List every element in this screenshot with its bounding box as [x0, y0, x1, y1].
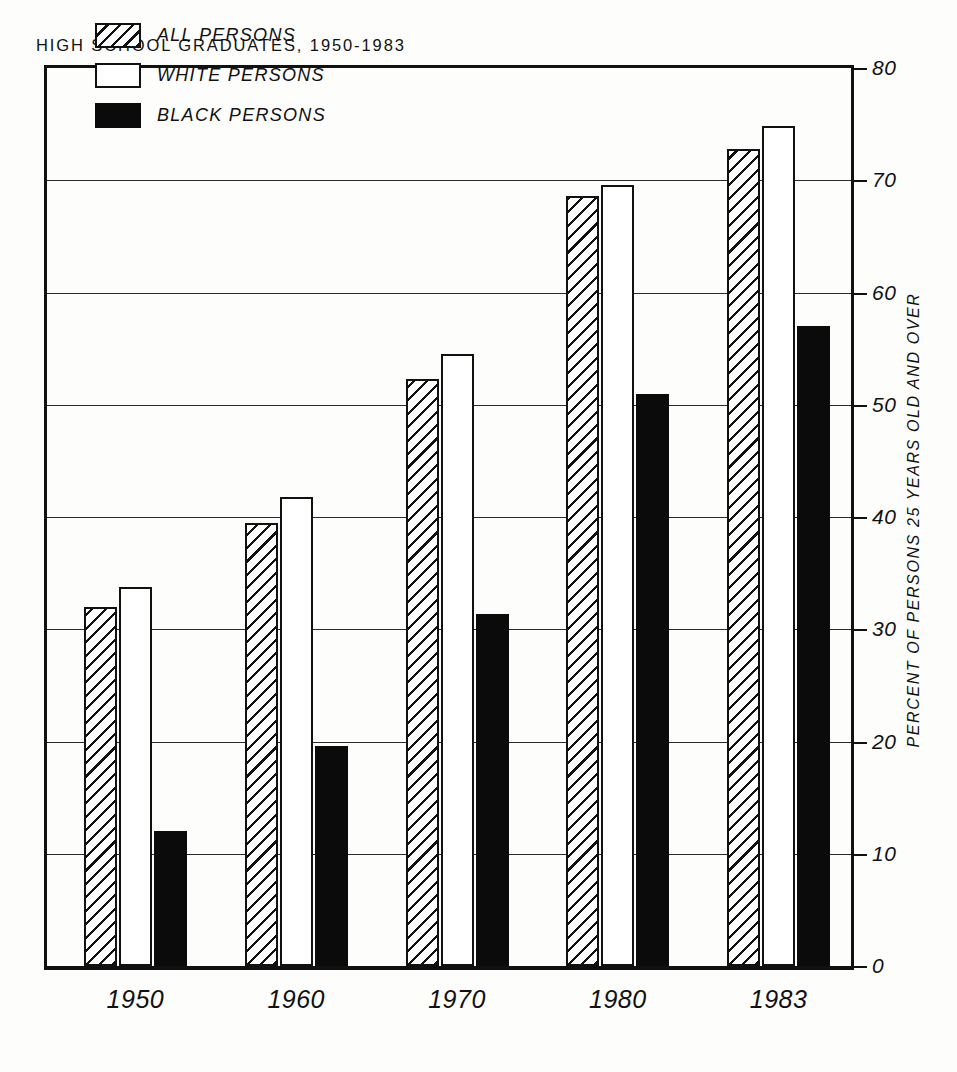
bar-1983-white[interactable]	[762, 126, 795, 966]
chart-legend: ALL PERSONS WHITE PERSONS BLACK PERSONS	[95, 17, 335, 137]
bar-1960-all[interactable]	[245, 523, 278, 966]
y-axis-tick-label: 50	[872, 393, 896, 417]
y-axis-tick-mark	[854, 68, 867, 70]
y-axis-tick-mark	[854, 742, 867, 744]
chart-figure: HIGH SCHOOL GRADUATES, 1950-1983 0102030…	[0, 0, 957, 1072]
bar-1983-all[interactable]	[727, 149, 760, 966]
legend-swatch-white-icon	[95, 63, 141, 88]
y-axis-title: PERCENT OF PERSONS 25 YEARS OLD AND OVER	[905, 293, 923, 748]
legend-swatch-black-icon	[95, 103, 141, 128]
x-axis-tick-label-1970: 1970	[428, 985, 486, 1014]
bar-1970-black[interactable]	[476, 614, 509, 966]
x-axis-tick-label-1960: 1960	[267, 985, 325, 1014]
y-axis-tick-label: 60	[872, 281, 896, 305]
bar-1980-white[interactable]	[601, 185, 634, 966]
bar-1960-black[interactable]	[315, 746, 348, 966]
bar-1960-white[interactable]	[280, 497, 313, 966]
y-axis-tick-mark	[854, 405, 867, 407]
y-axis-tick-mark	[854, 854, 867, 856]
x-axis-tick-label-1983: 1983	[750, 985, 808, 1014]
x-axis-tick-label-1980: 1980	[589, 985, 647, 1014]
legend-swatch-hatched-icon	[95, 23, 141, 48]
bar-1950-white[interactable]	[119, 587, 152, 966]
bar-1970-white[interactable]	[441, 354, 474, 966]
y-axis-tick-mark	[854, 293, 867, 295]
bar-1980-all[interactable]	[566, 196, 599, 966]
legend-label: WHITE PERSONS	[157, 65, 325, 86]
y-axis-tick-mark	[854, 629, 867, 631]
y-axis-tick-label: 70	[872, 168, 896, 192]
y-axis-tick-label: 40	[872, 505, 896, 529]
y-axis-tick-label: 20	[872, 730, 896, 754]
y-axis-tick-label: 80	[872, 56, 896, 80]
bar-1980-black[interactable]	[636, 394, 669, 966]
legend-item-black-persons: BLACK PERSONS	[95, 97, 335, 134]
plot-area	[44, 65, 854, 970]
legend-item-all-persons: ALL PERSONS	[95, 17, 335, 54]
plot-inner	[47, 68, 851, 966]
bar-1970-all[interactable]	[406, 379, 439, 966]
y-axis-tick-mark	[854, 966, 867, 968]
legend-label: BLACK PERSONS	[157, 105, 326, 126]
bar-1983-black[interactable]	[797, 326, 830, 966]
y-axis-tick-label: 0	[872, 954, 884, 978]
bar-1950-black[interactable]	[154, 831, 187, 966]
y-axis-tick-label: 30	[872, 617, 896, 641]
x-axis-tick-label-1950: 1950	[107, 985, 165, 1014]
y-axis-tick-mark	[854, 180, 867, 182]
y-axis-tick-mark	[854, 517, 867, 519]
legend-item-white-persons: WHITE PERSONS	[95, 57, 335, 94]
bar-1950-all[interactable]	[84, 607, 117, 966]
legend-label: ALL PERSONS	[157, 25, 296, 46]
y-axis-tick-label: 10	[872, 842, 896, 866]
